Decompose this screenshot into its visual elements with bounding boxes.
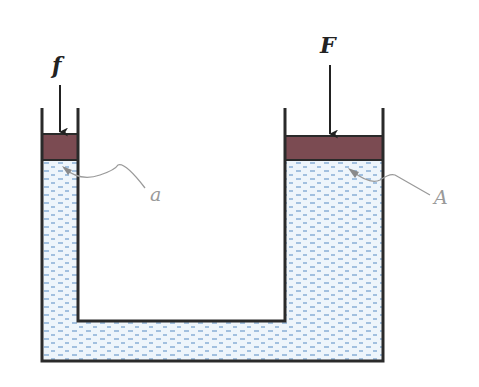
small-piston: [42, 134, 78, 160]
liquid: [42, 160, 383, 361]
vessel-inner-wall: [78, 108, 285, 321]
large-area-label: A: [434, 186, 448, 208]
small-force-label: f: [52, 52, 61, 78]
hydraulic-press-diagram: f F a A: [0, 0, 479, 387]
diagram-svg: [0, 0, 479, 387]
large-force-label: F: [320, 32, 336, 58]
large-piston: [285, 136, 383, 160]
small-area-label: a: [150, 183, 161, 205]
